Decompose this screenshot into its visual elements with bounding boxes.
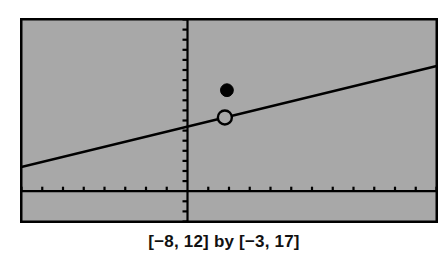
- filled-circle-point: [221, 84, 234, 97]
- calculator-figure: [−8, 12] by [−3, 17]: [0, 0, 448, 267]
- window-caption: [−8, 12] by [−3, 17]: [0, 232, 448, 252]
- plot-canvas: [20, 18, 438, 223]
- open-circle-point: [218, 110, 232, 124]
- calculator-screen: [20, 18, 438, 223]
